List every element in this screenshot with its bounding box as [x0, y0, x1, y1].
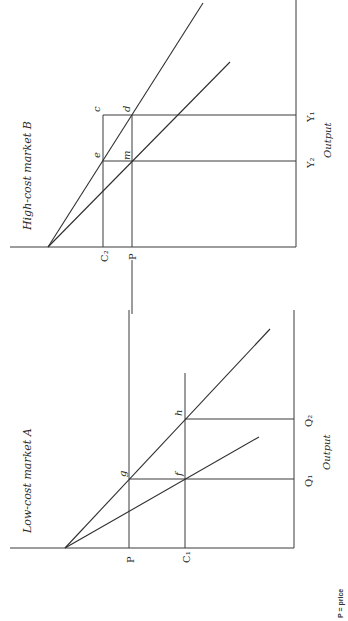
market-a-ray-shallow	[65, 437, 259, 548]
point-g-label: g	[117, 471, 128, 477]
market-a-output-label: Output	[321, 434, 332, 470]
point-e-label: e	[91, 152, 102, 158]
point-m-label: m	[121, 151, 132, 160]
market-b-c2-label: C₂	[99, 250, 110, 262]
market-a-p-label: P	[125, 556, 136, 563]
market-b-ray-shallow	[48, 62, 230, 247]
legend-note: P = price	[337, 589, 345, 618]
market-a-c1-label: C₁	[181, 551, 192, 563]
market-b-y1-label: Y₁	[305, 111, 316, 123]
point-h-label: h	[173, 410, 184, 416]
market-b-p-label: P	[127, 253, 138, 260]
diagram-canvas: High-cost market B c d e m C₂ P Y₁ Y₂ Ou…	[0, 0, 348, 621]
panel-market-b: High-cost market B c d e m C₂ P Y₁ Y₂ Ou…	[10, 0, 333, 314]
market-b-title: High-cost market B	[21, 121, 34, 231]
market-b-output-label: Output	[322, 122, 333, 158]
market-a-q1-label: Q₁	[303, 475, 314, 487]
market-a-title: Low-cost market A	[21, 428, 34, 534]
point-c-label: c	[91, 106, 102, 112]
point-f-label: f	[173, 470, 184, 477]
market-b-ray-steep	[48, 3, 203, 247]
point-d-label: d	[121, 106, 132, 112]
market-a-ray-steep	[65, 329, 270, 548]
market-a-q2-label: Q₂	[303, 415, 314, 427]
panel-market-a: Low-cost market A g f h P C₁ Q₁ Q₂ Outpu…	[10, 310, 332, 563]
market-b-y2-label: Y₂	[305, 157, 316, 169]
